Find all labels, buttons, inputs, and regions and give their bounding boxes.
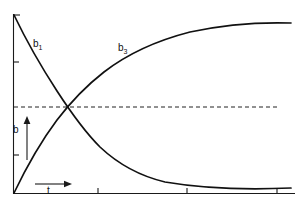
y-axis-label: b: [13, 125, 19, 135]
curve-label-b3-subscript: 3: [124, 48, 128, 55]
x-axis-arrow-head: [64, 181, 72, 187]
curve-label-b3: b3: [118, 43, 127, 55]
curve-label-b1: b1: [33, 39, 42, 51]
curve-b3-rise: [14, 23, 291, 193]
figure-container: b1 b3 b t: [0, 0, 301, 206]
plot-canvas: [0, 0, 301, 206]
x-axis-label: t: [47, 186, 50, 196]
y-axis-arrow-head: [24, 116, 31, 124]
curve-label-b1-subscript: 1: [39, 44, 43, 51]
curve-b1-decay: [14, 15, 291, 189]
